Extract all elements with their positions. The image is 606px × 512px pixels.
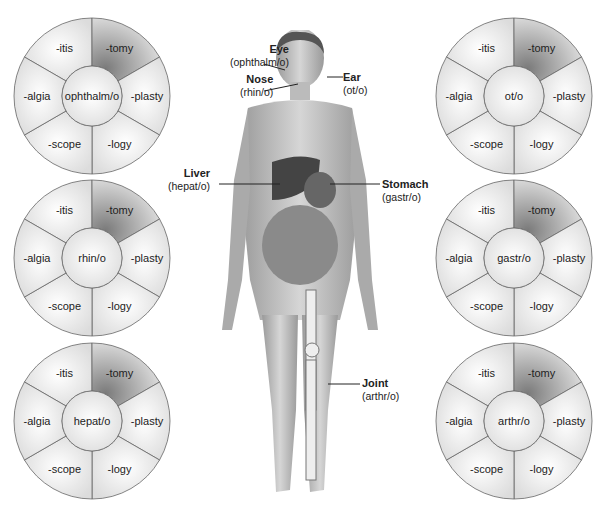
leader-lines (0, 0, 606, 512)
joint-label: Joint(arthr/o) (362, 377, 399, 403)
eye-label: Eye(ophthalm/o) (230, 43, 289, 69)
stomach-label: Stomach(gastr/o) (382, 178, 428, 204)
liver-label: Liver(hepat/o) (168, 167, 210, 193)
ear-label: Ear(ot/o) (343, 71, 368, 97)
nose-label: Nose(rhin/o) (240, 73, 273, 99)
